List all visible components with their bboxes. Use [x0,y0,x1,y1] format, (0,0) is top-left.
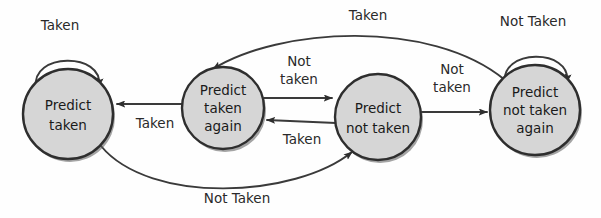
edge-label-not-line2: taken [280,71,318,87]
edge-not-taken-to-taken-again [267,120,336,123]
edge-arc-predict-taken-to-not-taken [101,146,352,188]
edge-label-not-taken-to-taken-again: Taken [282,131,321,147]
state-predict-not-taken[interactable]: Predict not taken [335,74,423,163]
fsm-svg: Taken Not Taken Taken Not Taken Taken No… [0,0,601,218]
state-label-predict-taken-again-line1: Predict [200,82,247,98]
state-predict-taken[interactable]: Predict taken [23,69,115,162]
edge-label-right-not-line2: taken [433,79,471,95]
state-label-predict-taken-line1: Predict [45,97,92,113]
state-predict-taken-again[interactable]: Predict taken again [182,67,266,152]
state-label-predict-taken-again-line3: again [204,118,241,134]
edge-label-taken-again-to-taken: Taken [135,115,174,131]
state-circle-predict-taken [23,69,113,159]
state-predict-not-taken-again[interactable]: Predict not taken again [490,65,582,158]
state-label-predict-taken-again-line2: taken [204,100,242,116]
state-label-predict-not-taken-again-line2: not taken [503,102,567,118]
state-circle-predict-not-taken [335,74,421,160]
state-label-predict-not-taken-again-line3: again [516,120,553,136]
edge-label-self-loop-predict-taken: Taken [40,17,79,33]
state-diagram-canvas: Taken Not Taken Taken Not Taken Taken No… [0,0,601,218]
state-label-predict-taken-line2: taken [49,117,87,133]
edge-label-right-not-line1: Not [440,61,464,77]
state-label-predict-not-taken-line1: Predict [355,100,402,116]
edge-label-arc-top: Taken [348,7,387,23]
state-label-predict-not-taken-again-line1: Predict [512,84,559,100]
edge-label-not-line1: Not [287,53,311,69]
state-label-predict-not-taken-line2: not taken [346,120,410,136]
edge-label-arc-bottom: Not Taken [204,190,270,206]
edge-label-self-loop-predict-not-taken-again: Not Taken [500,13,566,29]
